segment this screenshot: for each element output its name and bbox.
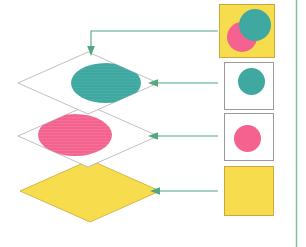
panel-pink-circle[interactable] [224, 113, 274, 161]
connector-pink-panel-to-layer [148, 132, 218, 140]
teal-circle-icon [238, 68, 265, 95]
layer-teal-ellipse[interactable] [18, 52, 158, 114]
pink-ellipse-shape [38, 114, 112, 156]
connector-teal-panel-to-layer [148, 79, 218, 87]
pink-circle-icon [234, 125, 261, 152]
connector-yellow-panel-to-layer [150, 187, 218, 195]
panel-yellow-fill[interactable] [224, 166, 274, 216]
diagram-canvas [0, 0, 306, 247]
panel-composite-result[interactable] [219, 4, 275, 58]
teal-circle-icon [239, 9, 271, 41]
layer-yellow-base[interactable] [20, 160, 160, 222]
teal-ellipse-shape [71, 63, 141, 103]
panel-teal-circle[interactable] [224, 62, 274, 110]
yellow-diamond-shape [20, 160, 160, 222]
connector-composite-to-stack [87, 31, 218, 56]
